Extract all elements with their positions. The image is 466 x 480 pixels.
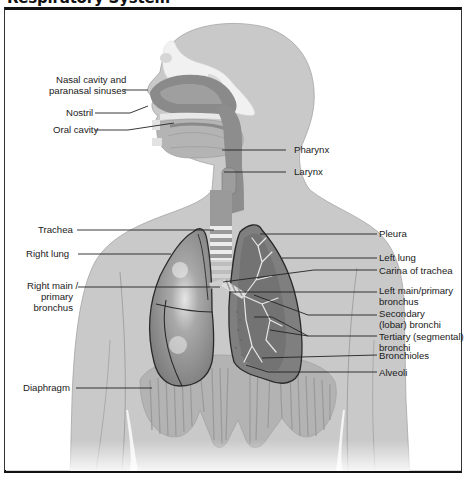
label-carina: Carina of trachea (379, 265, 453, 276)
anatomy-illustration (0, 0, 466, 480)
label-secondary-bronchi: Secondary (lobar) bronchi (379, 308, 441, 330)
label-left-lung: Left lung (379, 252, 416, 263)
label-bronchioles: Bronchioles (379, 350, 429, 361)
label-alveoli: Alveoli (379, 367, 407, 378)
label-trachea: Trachea (38, 224, 73, 235)
label-left-main-bronchus: Left main/primary bronchus (379, 285, 453, 307)
label-diaphragm: Diaphragm (23, 382, 70, 393)
label-right-main-bronchus: Right main / primary bronchus (27, 280, 73, 313)
label-nostril: Nostril (66, 107, 93, 118)
label-right-lung: Right lung (26, 248, 69, 259)
label-nasal-cavity: Nasal cavity and paranasal sinuses (49, 74, 126, 96)
trachea-shape (210, 190, 232, 286)
label-pharynx: Pharynx (294, 144, 329, 155)
label-larynx: Larynx (294, 166, 323, 177)
label-pleura: Pleura (379, 228, 407, 239)
label-oral-cavity: Oral cavity (53, 124, 98, 135)
